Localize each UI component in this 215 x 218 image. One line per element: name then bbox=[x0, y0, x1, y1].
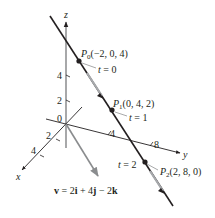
z-tick-label-2: 2 bbox=[57, 95, 62, 106]
svg-text:P0(−2, 0, 4): P0(−2, 0, 4) bbox=[80, 48, 128, 61]
z-axis-label: z bbox=[63, 9, 68, 20]
x-tick-label-4: 4 bbox=[31, 145, 36, 156]
point-p0: P0(−2, 0, 4) t = 0 bbox=[76, 48, 128, 75]
vector-equation: v = 2i + 4j − 2k bbox=[54, 185, 118, 196]
y-tick-label-4: 4 bbox=[110, 128, 115, 139]
x-tick-label-2: 2 bbox=[46, 130, 51, 141]
x-tick-2 bbox=[56, 139, 60, 141]
origin-label: 0 bbox=[57, 113, 62, 124]
t-label-0: t = 0 bbox=[98, 64, 116, 75]
t-label-2: t = 2 bbox=[118, 159, 136, 170]
y-axis-label: y bbox=[182, 149, 188, 160]
t-label-1: t = 1 bbox=[129, 112, 147, 123]
y-tick-label-8: 8 bbox=[154, 139, 159, 150]
z-tick-label-4: 4 bbox=[57, 70, 62, 81]
point-p2: t = 2 P2(2, 8, 0) bbox=[118, 159, 201, 179]
x-axis-label: x bbox=[15, 171, 21, 182]
svg-text:P2(2, 8, 0): P2(2, 8, 0) bbox=[159, 166, 201, 179]
arrowhead-icon bbox=[97, 93, 104, 99]
x-axis: x 2 4 0 bbox=[15, 107, 82, 182]
x-tick-4 bbox=[40, 155, 44, 157]
line-direction-arrow-1 bbox=[87, 73, 102, 96]
svg-text:P1(0, 4, 2): P1(0, 4, 2) bbox=[112, 98, 154, 111]
line-parametrization-diagram: z 2 4 y 4 8 x 2 4 0 v = 2i + 4j − 2k bbox=[0, 0, 215, 218]
